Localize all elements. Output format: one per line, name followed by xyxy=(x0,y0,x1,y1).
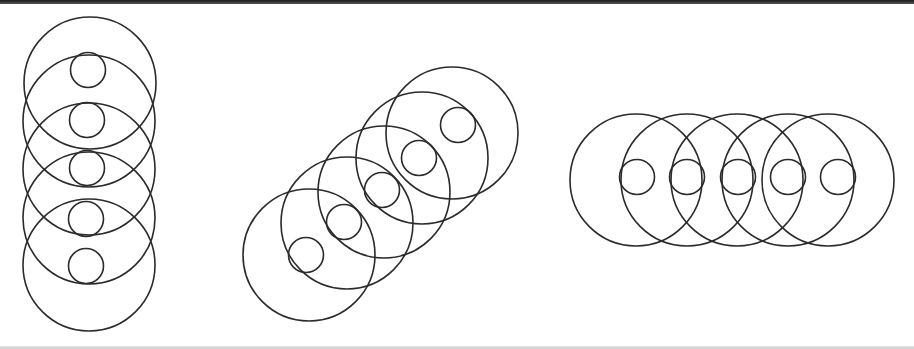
small-circle xyxy=(69,202,104,237)
vertical-circle-group xyxy=(23,17,156,331)
large-circle xyxy=(24,17,156,149)
large-circle xyxy=(621,114,753,246)
large-circle xyxy=(356,92,488,224)
small-circle xyxy=(402,141,437,176)
horizontal-circle-group xyxy=(570,114,894,246)
small-circle xyxy=(441,108,476,143)
diagonal-circle-group xyxy=(243,67,518,321)
small-circle xyxy=(71,53,106,88)
small-circle xyxy=(70,151,105,186)
small-circle xyxy=(365,173,400,208)
small-circle xyxy=(289,238,324,273)
small-circle xyxy=(821,160,856,195)
small-circle xyxy=(670,160,705,195)
circle-diagram xyxy=(0,0,914,349)
small-circle xyxy=(771,160,806,195)
large-circle xyxy=(722,114,854,246)
small-circle xyxy=(69,249,104,284)
large-circle xyxy=(570,114,702,246)
large-circle xyxy=(762,114,894,246)
small-circle xyxy=(70,103,105,138)
small-circle xyxy=(327,205,362,240)
large-circle xyxy=(671,114,803,246)
small-circle xyxy=(620,160,655,195)
small-circle xyxy=(721,160,756,195)
large-circle xyxy=(386,67,518,199)
